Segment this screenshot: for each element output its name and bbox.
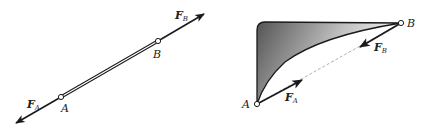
label-point-b: B <box>152 48 161 61</box>
label-point-b: B <box>406 17 415 30</box>
label-force-b: FB <box>174 9 188 23</box>
label-force-b: FB <box>373 41 387 55</box>
pin-b <box>155 38 160 43</box>
label-point-a: A <box>241 98 250 111</box>
right-figure-curved-member: A B FA FB <box>241 17 415 111</box>
label-force-a: FA <box>26 98 40 112</box>
pin-b <box>398 20 403 25</box>
pin-a <box>254 101 259 106</box>
label-force-a: FA <box>284 91 298 105</box>
two-force-member-diagram: A B FA FB A B FA FB <box>0 0 426 132</box>
label-point-a: A <box>60 102 69 115</box>
pin-a <box>58 94 63 99</box>
left-figure-straight-bar: A B FA FB <box>16 9 204 123</box>
